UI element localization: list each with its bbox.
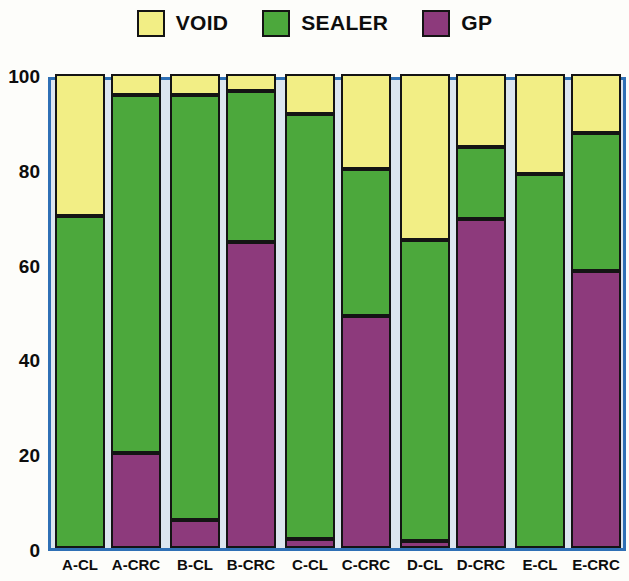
x-tick-label-e-cl: E-CL: [523, 556, 558, 573]
x-tick-label-d-crc: D-CRC: [457, 556, 505, 573]
x-axis: A-CLA-CRCB-CLB-CRCC-CLC-CRCD-CLD-CRCE-CL…: [48, 556, 626, 581]
bar-segment-sealer: [400, 240, 450, 541]
bar-segment-sealer: [456, 147, 506, 218]
legend-item-void: VOID: [137, 10, 229, 37]
x-tick-label-c-crc: C-CRC: [342, 556, 390, 573]
legend-label-sealer: SEALER: [301, 11, 388, 35]
bar-segment-void: [55, 74, 105, 216]
bar-segment-gp: [170, 520, 220, 548]
bar-c-cl: [285, 80, 335, 548]
bar-segment-void: [226, 74, 276, 91]
bar-segment-gp: [456, 219, 506, 548]
x-tick-label-b-crc: B-CRC: [227, 556, 275, 573]
bar-segment-gp: [400, 541, 450, 548]
bar-a-cl: [55, 80, 105, 548]
bar-segment-void: [111, 74, 161, 95]
chart-legend: VOID SEALER GP: [0, 0, 629, 46]
bar-segment-sealer: [285, 114, 335, 538]
bar-segment-sealer: [341, 169, 391, 316]
legend-label-gp: GP: [461, 11, 492, 35]
bar-segment-sealer: [55, 216, 105, 548]
bar-segment-void: [341, 74, 391, 169]
legend-swatch-gp: [422, 10, 450, 37]
x-tick-label-d-cl: D-CL: [407, 556, 443, 573]
legend-swatch-void: [137, 10, 165, 37]
x-tick-label-e-crc: E-CRC: [572, 556, 620, 573]
y-axis: 020406080100: [0, 77, 48, 551]
y-tick-label: 0: [29, 540, 40, 562]
y-tick-label: 20: [19, 445, 40, 467]
bar-segment-sealer: [111, 95, 161, 453]
bar-segment-gp: [226, 242, 276, 548]
legend-item-sealer: SEALER: [262, 10, 388, 37]
bar-segment-sealer: [170, 95, 220, 519]
bar-segment-sealer: [226, 91, 276, 243]
bar-segment-gp: [111, 453, 161, 548]
bar-segment-void: [170, 74, 220, 95]
bar-b-cl: [170, 80, 220, 548]
bar-a-crc: [111, 80, 161, 548]
y-tick-label: 60: [19, 256, 40, 278]
x-tick-label-b-cl: B-CL: [177, 556, 213, 573]
legend-item-gp: GP: [422, 10, 492, 37]
bar-b-crc: [226, 80, 276, 548]
y-tick-label: 80: [19, 161, 40, 183]
plot-area: [48, 77, 626, 551]
bar-c-crc: [341, 80, 391, 548]
bar-segment-gp: [285, 539, 335, 548]
bar-d-crc: [456, 80, 506, 548]
y-tick-label: 100: [8, 66, 40, 88]
bar-segment-sealer: [515, 174, 565, 548]
bar-d-cl: [400, 80, 450, 548]
legend-label-void: VOID: [176, 11, 229, 35]
bar-segment-void: [571, 74, 621, 133]
legend-swatch-sealer: [262, 10, 290, 37]
bar-segment-void: [285, 74, 335, 114]
bar-segment-gp: [571, 271, 621, 548]
bar-e-cl: [515, 80, 565, 548]
x-tick-label-a-crc: A-CRC: [112, 556, 160, 573]
bars-container: [51, 80, 623, 548]
bar-segment-void: [456, 74, 506, 147]
y-tick-label: 40: [19, 350, 40, 372]
x-tick-label-a-cl: A-CL: [62, 556, 98, 573]
bar-e-crc: [571, 80, 621, 548]
bar-segment-void: [400, 74, 450, 240]
bar-segment-void: [515, 74, 565, 174]
bar-segment-gp: [341, 316, 391, 548]
x-tick-label-c-cl: C-CL: [292, 556, 328, 573]
bar-segment-sealer: [571, 133, 621, 270]
